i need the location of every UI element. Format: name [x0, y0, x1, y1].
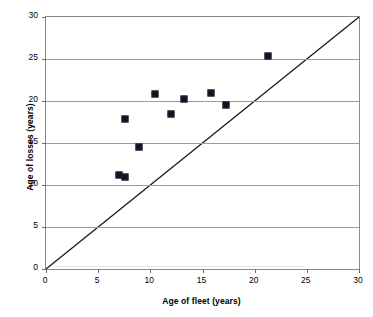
y-tick-label-5: 5	[4, 221, 38, 230]
x-axis-title: Age of fleet (years)	[45, 296, 358, 306]
x-tick-label-10: 10	[134, 276, 164, 285]
data-point	[151, 91, 158, 98]
data-point	[122, 173, 129, 180]
y-tick-label-10: 10	[4, 179, 38, 188]
x-tick-mark-10	[150, 269, 151, 273]
data-point	[180, 96, 187, 103]
y-axis-title: Age of losses (years)	[25, 62, 35, 232]
plot-area	[45, 16, 360, 270]
gridline-y-25	[46, 59, 359, 60]
x-tick-mark-15	[203, 269, 204, 273]
scan-artifact-baseline	[55, 266, 305, 267]
y-tick-mark-30	[42, 17, 46, 18]
x-tick-mark-5	[98, 269, 99, 273]
x-tick-label-15: 15	[187, 276, 217, 285]
y-tick-label-0: 0	[4, 263, 38, 272]
y-tick-label-30: 30	[4, 11, 38, 20]
data-point	[168, 110, 175, 117]
x-tick-mark-25	[307, 269, 308, 273]
y-tick-mark-5	[42, 227, 46, 228]
x-tick-label-0: 0	[30, 276, 60, 285]
scatter-chart: Age of losses (years) Age of fleet (year…	[0, 0, 373, 317]
y-tick-mark-20	[42, 101, 46, 102]
data-point	[135, 144, 142, 151]
y-tick-label-20: 20	[4, 95, 38, 104]
y-tick-label-15: 15	[4, 137, 38, 146]
x-tick-label-30: 30	[343, 276, 373, 285]
data-point	[223, 102, 230, 109]
x-tick-mark-0	[46, 269, 47, 273]
y-tick-mark-25	[42, 59, 46, 60]
gridline-y-15	[46, 143, 359, 144]
x-tick-label-5: 5	[82, 276, 112, 285]
y-tick-mark-10	[42, 185, 46, 186]
x-tick-mark-20	[255, 269, 256, 273]
y-tick-label-25: 25	[4, 53, 38, 62]
data-point	[265, 53, 272, 60]
x-tick-label-25: 25	[291, 276, 321, 285]
gridline-y-5	[46, 227, 359, 228]
gridline-y-10	[46, 185, 359, 186]
data-point	[122, 116, 129, 123]
gridline-y-20	[46, 101, 359, 102]
x-tick-label-20: 20	[239, 276, 269, 285]
x-tick-mark-30	[359, 269, 360, 273]
data-point	[207, 90, 214, 97]
y-tick-mark-15	[42, 143, 46, 144]
